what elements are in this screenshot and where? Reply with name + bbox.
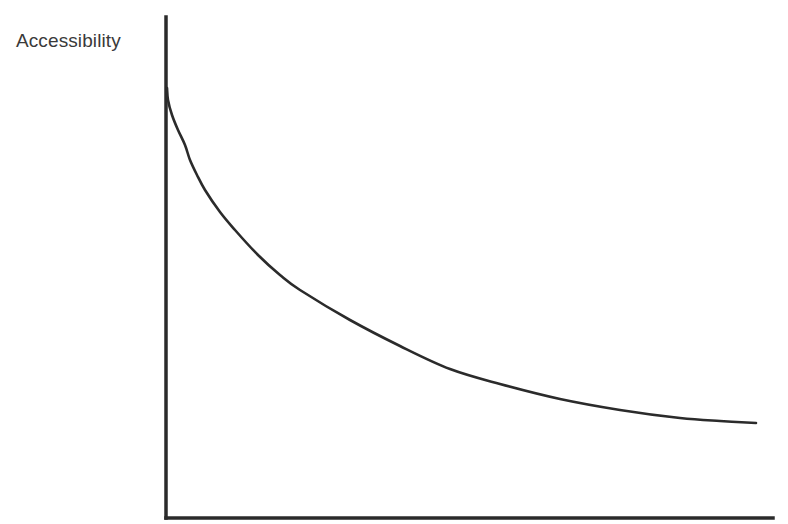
- accessibility-curve: [167, 88, 756, 423]
- chart-plot-area: [0, 0, 788, 524]
